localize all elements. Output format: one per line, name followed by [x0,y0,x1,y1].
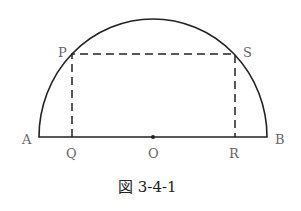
figure-caption: 図 3-4-1 [118,178,177,196]
label-r: R [229,146,240,161]
rectangle-pqrs [72,54,235,137]
label-s: S [243,45,252,60]
label-p: P [58,45,67,60]
label-q: Q [66,146,77,161]
label-b: B [275,132,285,147]
center-point-o [151,135,155,139]
label-a: A [21,132,32,147]
semicircle-diagram: P S A B Q O R 図 3-4-1 [0,0,301,211]
semicircle [39,19,267,137]
label-o: O [148,146,159,161]
